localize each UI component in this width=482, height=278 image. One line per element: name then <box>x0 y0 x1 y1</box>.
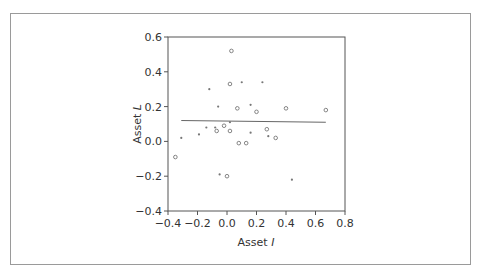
data-point-dot <box>219 173 221 175</box>
data-point-dot <box>291 179 293 181</box>
data-point-circle <box>265 127 269 131</box>
data-point-dot <box>250 104 252 106</box>
y-axis-label: Asset L <box>131 104 144 144</box>
y-tick-label: −0.2 <box>135 170 162 183</box>
data-point-dot <box>198 133 200 135</box>
data-point-dot <box>241 81 243 83</box>
y-tick-label: 0.0 <box>145 135 163 148</box>
data-point-circle <box>225 174 229 178</box>
plot-area <box>168 37 345 211</box>
y-tick-label: 0.6 <box>145 31 163 44</box>
y-tick-label: 0.2 <box>145 101 163 114</box>
data-point-circle <box>174 155 178 159</box>
data-point-circle <box>230 49 234 53</box>
x-tick-label: −0.4 <box>155 217 182 230</box>
data-point-circle <box>324 108 328 112</box>
data-point-circle <box>215 129 219 133</box>
data-point-dot <box>261 81 263 83</box>
scatter-chart: −0.4−0.20.00.20.40.60.80.60.40.20.0−0.2−… <box>0 0 482 278</box>
x-tick-label: 0.2 <box>248 217 266 230</box>
data-point-dot <box>267 135 269 137</box>
data-point-dot <box>180 137 182 139</box>
data-point-circle <box>284 107 288 111</box>
data-point-circle <box>228 82 232 86</box>
data-point-dot <box>208 88 210 90</box>
data-point-circle <box>244 141 248 145</box>
axes: −0.4−0.20.00.20.40.60.80.60.40.20.0−0.2−… <box>135 31 353 230</box>
y-tick-label: 0.4 <box>145 66 163 79</box>
x-axis-label: Asset I <box>238 236 275 249</box>
x-tick-label: 0.4 <box>277 217 295 230</box>
data-point-circle <box>222 124 226 128</box>
y-tick-label: −0.4 <box>135 205 162 218</box>
data-point-circle <box>255 110 259 114</box>
x-tick-label: 0.0 <box>218 217 236 230</box>
regression-line <box>181 121 326 123</box>
x-tick-label: 0.6 <box>307 217 325 230</box>
fit-line <box>181 121 326 123</box>
x-tick-label: −0.2 <box>184 217 211 230</box>
data-point-circle <box>236 107 240 111</box>
data-point-circle <box>228 129 232 133</box>
data-points <box>174 49 328 181</box>
data-point-dot <box>217 106 219 108</box>
data-point-dot <box>205 126 207 128</box>
data-point-circle <box>237 141 241 145</box>
data-point-dot <box>250 132 252 134</box>
x-tick-label: 0.8 <box>336 217 354 230</box>
data-point-dot <box>214 126 216 128</box>
data-point-circle <box>274 136 278 140</box>
